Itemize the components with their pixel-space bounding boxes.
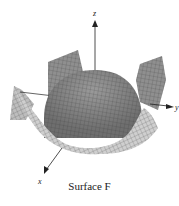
z-axis: z: [92, 9, 98, 70]
figure-caption: Surface F: [0, 180, 179, 192]
z-axis-label: z: [92, 9, 97, 18]
y-axis-label: y: [174, 103, 179, 112]
surface-back-right-wing: [136, 56, 166, 110]
y-axis-arrowhead-icon: [166, 104, 174, 109]
surface-plot: z y x: [0, 0, 179, 206]
z-axis-arrowhead-icon: [92, 20, 98, 27]
